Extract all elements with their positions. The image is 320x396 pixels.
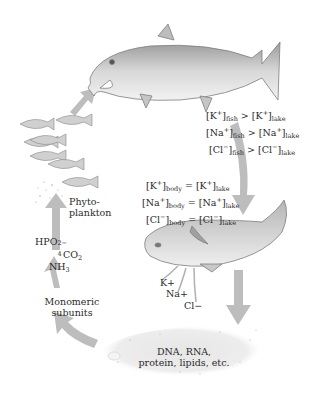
monomeric-subunits-label: Monomeric subunits bbox=[44, 296, 100, 318]
cl-body-line: [Cl−]body = [Cl−]lake bbox=[142, 212, 239, 229]
ion-na-label: Na+ bbox=[166, 288, 188, 299]
big-fish bbox=[88, 24, 280, 112]
phosphate-label: HPO2−4 bbox=[35, 236, 66, 247]
na-fish-line: [Na+]fish > [Na+]lake bbox=[206, 125, 299, 142]
ion-k-label: K+ bbox=[160, 277, 175, 288]
cl-fish-line: [Cl−]fish > [Cl−]lake bbox=[206, 142, 299, 159]
body-vs-lake-concentrations: [K+]body = [K+]lake [Na+]body = [Na+]lak… bbox=[142, 178, 239, 229]
ion-cl-label: Cl− bbox=[184, 300, 202, 311]
k-body-line: [K+]body = [K+]lake bbox=[142, 178, 239, 195]
macromolecules-label: DNA, RNA, protein, lipids, etc. bbox=[124, 346, 244, 368]
fish-vs-lake-concentrations: [K+]fish > [K+]lake [Na+]fish > [Na+]lak… bbox=[206, 108, 299, 159]
arrow-to-decomposition bbox=[226, 270, 251, 325]
na-body-line: [Na+]body = [Na+]lake bbox=[142, 195, 239, 212]
k-fish-line: [K+]fish > [K+]lake bbox=[206, 108, 299, 125]
phytoplankton-label: Phyto- plankton bbox=[69, 196, 111, 218]
nh3-label: NH3 bbox=[49, 261, 70, 276]
small-fish-school bbox=[20, 114, 98, 188]
